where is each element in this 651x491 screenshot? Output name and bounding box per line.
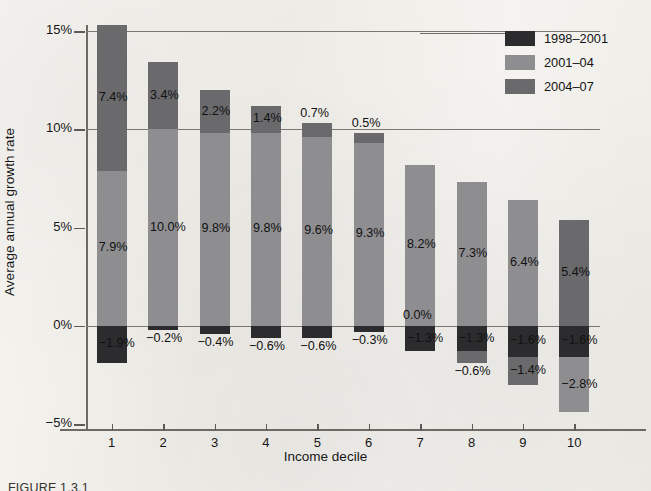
x-tick-label-2: 2 bbox=[143, 435, 183, 450]
bar-segment-200104-decile-5[interactable] bbox=[302, 137, 332, 326]
x-tick-label-7: 7 bbox=[400, 435, 440, 450]
y-tick--5 bbox=[74, 424, 85, 426]
x-tick-label-6: 6 bbox=[349, 435, 389, 450]
bar-segment-19982001-decile-7[interactable] bbox=[405, 326, 435, 352]
bar-segment-200407-decile-5[interactable] bbox=[302, 123, 332, 137]
bar-segment-200407-decile-6[interactable] bbox=[354, 133, 384, 143]
x-tick-5 bbox=[317, 424, 319, 431]
bar-segment-200407-decile-8[interactable] bbox=[457, 351, 487, 363]
bar-group-decile-6[interactable] bbox=[354, 31, 384, 424]
y-tick-label-10: 10% bbox=[24, 120, 72, 135]
bar-segment-200104-decile-3[interactable] bbox=[200, 133, 230, 326]
bar-segment-19982001-decile-9[interactable] bbox=[508, 326, 538, 357]
bar-segment-19982001-decile-4[interactable] bbox=[251, 326, 281, 338]
bar-group-decile-5[interactable] bbox=[302, 31, 332, 424]
x-tick-6 bbox=[369, 424, 371, 431]
bar-segment-200104-decile-4[interactable] bbox=[251, 133, 281, 326]
x-tick-4 bbox=[266, 424, 268, 431]
bar-segment-200104-decile-10[interactable] bbox=[559, 357, 589, 412]
bar-segment-200407-decile-10[interactable] bbox=[559, 220, 589, 326]
figure-caption: FIGURE 1.3.1 bbox=[8, 481, 89, 491]
x-tick-label-3: 3 bbox=[195, 435, 235, 450]
x-tick-label-4: 4 bbox=[246, 435, 286, 450]
bar-segment-19982001-decile-10[interactable] bbox=[559, 326, 589, 357]
bar-segment-200407-decile-1[interactable] bbox=[97, 25, 127, 170]
y-axis-title: Average annual growth rate bbox=[2, 0, 24, 92]
y-tick-label-0: 0% bbox=[24, 317, 72, 332]
x-tick-label-10: 10 bbox=[554, 435, 594, 450]
bar-segment-200104-decile-2[interactable] bbox=[148, 129, 178, 326]
bar-group-decile-8[interactable] bbox=[457, 31, 487, 424]
bar-group-decile-3[interactable] bbox=[200, 31, 230, 424]
legend-item-200407[interactable]: 2004–07 bbox=[505, 74, 645, 98]
x-axis-line bbox=[60, 429, 646, 431]
bar-segment-200407-decile-4[interactable] bbox=[251, 106, 281, 134]
y-tick-15 bbox=[74, 31, 85, 33]
bar-segment-19982001-decile-2[interactable] bbox=[148, 326, 178, 330]
y-tick-label-5: 5% bbox=[24, 219, 72, 234]
x-axis-title: Income decile bbox=[0, 449, 651, 464]
bar-group-decile-2[interactable] bbox=[148, 31, 178, 424]
bar-segment-200104-decile-7[interactable] bbox=[405, 165, 435, 326]
y-tick-5 bbox=[74, 228, 85, 230]
y-axis-title-text: Average annual growth rate bbox=[2, 92, 17, 332]
x-tick-1 bbox=[112, 424, 114, 431]
bar-segment-19982001-decile-1[interactable] bbox=[97, 326, 127, 363]
chart-legend: 1998–20012001–042004–07 bbox=[505, 26, 645, 98]
bar-segment-19982001-decile-8[interactable] bbox=[457, 326, 487, 352]
x-tick-label-9: 9 bbox=[503, 435, 543, 450]
bar-segment-200104-decile-8[interactable] bbox=[457, 182, 487, 325]
x-tick-10 bbox=[574, 424, 576, 431]
x-tick-label-1: 1 bbox=[92, 435, 132, 450]
x-tick-3 bbox=[215, 424, 217, 431]
bar-group-decile-7[interactable] bbox=[405, 31, 435, 424]
legend-item-200104[interactable]: 2001–04 bbox=[505, 50, 645, 74]
legend-swatch-19982001 bbox=[505, 31, 535, 46]
bar-segment-200104-decile-1[interactable] bbox=[97, 171, 127, 326]
legend-leader-line bbox=[420, 33, 512, 34]
bar-segment-19982001-decile-3[interactable] bbox=[200, 326, 230, 334]
y-tick-10 bbox=[74, 129, 85, 131]
legend-item-19982001[interactable]: 1998–2001 bbox=[505, 26, 645, 50]
legend-swatch-200407 bbox=[505, 79, 535, 94]
bar-segment-19982001-decile-5[interactable] bbox=[302, 326, 332, 338]
y-tick-label-15: 15% bbox=[24, 22, 72, 37]
bar-segment-200407-decile-3[interactable] bbox=[200, 90, 230, 133]
y-tick-label--5: −5% bbox=[24, 415, 72, 430]
x-tick-9 bbox=[523, 424, 525, 431]
legend-swatch-200104 bbox=[505, 55, 535, 70]
x-tick-label-5: 5 bbox=[297, 435, 337, 450]
bar-group-decile-4[interactable] bbox=[251, 31, 281, 424]
bar-segment-200407-decile-9[interactable] bbox=[508, 357, 538, 385]
bar-segment-200104-decile-9[interactable] bbox=[508, 200, 538, 326]
x-tick-2 bbox=[163, 424, 165, 431]
legend-label-19982001: 1998–2001 bbox=[544, 31, 608, 46]
bar-segment-19982001-decile-6[interactable] bbox=[354, 326, 384, 332]
bar-group-decile-1[interactable] bbox=[97, 31, 127, 424]
x-tick-8 bbox=[472, 424, 474, 431]
x-tick-label-8: 8 bbox=[452, 435, 492, 450]
figure-chart: Average annual growth rate −5%0%5%10%15%… bbox=[0, 0, 651, 491]
bar-segment-200104-decile-6[interactable] bbox=[354, 143, 384, 326]
bar-segment-200407-decile-2[interactable] bbox=[148, 62, 178, 129]
legend-label-200104: 2001–04 bbox=[544, 55, 594, 70]
x-tick-7 bbox=[420, 424, 422, 431]
y-tick-0 bbox=[74, 326, 85, 328]
legend-label-200407: 2004–07 bbox=[544, 79, 594, 94]
